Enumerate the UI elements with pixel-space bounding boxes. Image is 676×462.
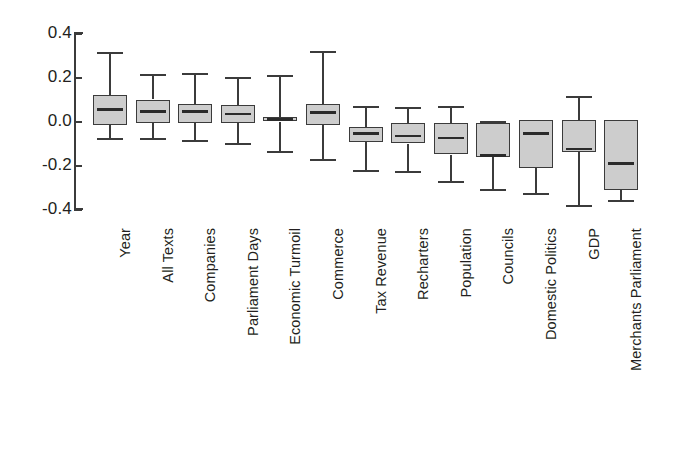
whisker-lower — [194, 123, 196, 142]
plot-area — [0, 0, 676, 232]
x-tick-label: Recharters — [415, 228, 431, 300]
x-tick-label: Companies — [202, 228, 218, 302]
x-tick-label: Population — [458, 228, 474, 298]
whisker-cap-upper — [438, 106, 464, 108]
median-line — [480, 154, 506, 157]
whisker-lower — [237, 123, 239, 144]
whisker-cap-upper — [182, 73, 208, 75]
whisker-upper — [322, 52, 324, 104]
x-tick-label-wrapper: Merchants Parliament — [628, 228, 644, 371]
whisker-lower — [450, 155, 452, 183]
x-tick-label-wrapper: Population — [458, 228, 474, 298]
x-tick-label: GDP — [586, 228, 602, 260]
median-line — [438, 137, 464, 140]
median-line — [523, 132, 549, 135]
whisker-cap-upper — [353, 106, 379, 108]
whisker-cap-lower — [97, 138, 123, 140]
whisker-upper — [578, 97, 580, 120]
whisker-lower — [407, 144, 409, 173]
median-line — [225, 113, 251, 116]
whisker-lower — [279, 122, 281, 153]
whisker-cap-lower — [182, 140, 208, 142]
whisker-cap-upper — [97, 52, 123, 54]
whisker-upper — [194, 74, 196, 104]
whisker-upper — [450, 107, 452, 122]
x-tick-label-wrapper: Parliament Days — [245, 228, 261, 336]
box-iqr — [306, 104, 340, 125]
median-line — [566, 148, 592, 151]
whisker-cap-lower — [140, 138, 166, 140]
box-plot-item[interactable] — [349, 0, 383, 232]
whisker-upper — [365, 107, 367, 127]
whisker-lower — [492, 157, 494, 190]
whisker-cap-lower — [267, 151, 293, 153]
x-tick-label-wrapper: All Texts — [160, 228, 176, 283]
whisker-lower — [322, 125, 324, 160]
whisker-cap-lower — [310, 159, 336, 161]
x-tick-label: Parliament Days — [245, 228, 261, 336]
box-iqr — [178, 104, 212, 123]
x-tick-label-wrapper: Economic Turmoil — [287, 228, 303, 345]
x-tick-label-wrapper: GDP — [586, 228, 602, 260]
box-plot-item[interactable] — [562, 0, 596, 232]
box-plot-item[interactable] — [391, 0, 425, 232]
x-tick-label-wrapper: Recharters — [415, 228, 431, 300]
whisker-cap-upper — [566, 96, 592, 98]
median-line — [97, 108, 123, 111]
x-tick-label: Domestic Politics — [543, 228, 559, 340]
box-plot-item[interactable] — [476, 0, 510, 232]
median-line — [267, 118, 293, 121]
box-plot-item[interactable] — [519, 0, 553, 232]
whisker-cap-lower — [353, 170, 379, 172]
whisker-lower — [578, 152, 580, 206]
x-tick-label-wrapper: Councils — [500, 228, 516, 284]
box-plot-item[interactable] — [178, 0, 212, 232]
box-plot-chart: 0.40.20.0-0.2-0.4 YearAll TextsCompanies… — [0, 0, 676, 462]
x-tick-label-wrapper: Companies — [202, 228, 218, 302]
whisker-lower — [152, 123, 154, 140]
box-plot-item[interactable] — [263, 0, 297, 232]
box-plot-item[interactable] — [221, 0, 255, 232]
whisker-cap-lower — [523, 193, 549, 195]
x-tick-label: Commerce — [330, 228, 346, 300]
box-plot-item[interactable] — [604, 0, 638, 232]
whisker-upper — [109, 53, 111, 95]
whisker-lower — [109, 125, 111, 139]
box-plot-item[interactable] — [136, 0, 170, 232]
median-line — [608, 162, 634, 165]
whisker-cap-upper — [267, 75, 293, 77]
whisker-upper — [407, 108, 409, 122]
whisker-cap-lower — [438, 181, 464, 183]
x-tick-label-wrapper: Tax Revenue — [373, 228, 389, 314]
box-iqr — [604, 120, 638, 189]
box-plot-item[interactable] — [306, 0, 340, 232]
whisker-upper — [237, 78, 239, 106]
whisker-cap-lower — [480, 189, 506, 191]
median-line — [140, 110, 166, 113]
x-tick-label: Tax Revenue — [373, 228, 389, 314]
box-plot-item[interactable] — [434, 0, 468, 232]
x-tick-label: Economic Turmoil — [287, 228, 303, 345]
x-tick-label-wrapper: Commerce — [330, 228, 346, 300]
whisker-cap-lower — [395, 171, 421, 173]
x-tick-label: Merchants Parliament — [628, 228, 644, 371]
box-plot-item[interactable] — [93, 0, 127, 232]
whisker-cap-upper — [395, 107, 421, 109]
whisker-cap-upper — [140, 74, 166, 76]
median-line — [353, 132, 379, 135]
whisker-lower — [535, 168, 537, 194]
x-tick-label-wrapper: Domestic Politics — [543, 228, 559, 340]
box-iqr — [519, 120, 553, 167]
whisker-upper — [279, 76, 281, 117]
median-line — [395, 135, 421, 138]
whisker-upper — [152, 75, 154, 99]
x-tick-label-wrapper: Year — [117, 228, 133, 258]
whisker-cap-lower — [566, 205, 592, 207]
median-line — [182, 110, 208, 113]
whisker-cap-upper — [225, 77, 251, 79]
x-tick-label: All Texts — [160, 228, 176, 283]
x-tick-label: Councils — [500, 228, 516, 284]
median-line — [310, 111, 336, 114]
whisker-cap-lower — [608, 200, 634, 202]
x-tick-label: Year — [117, 228, 133, 258]
